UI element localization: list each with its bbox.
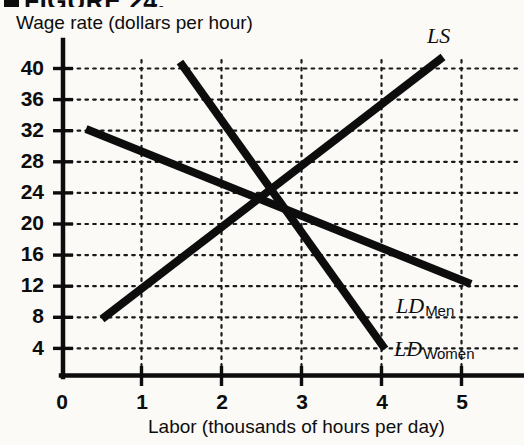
ytick-label-16: 16 bbox=[0, 243, 44, 264]
curve-label-ld-men-text: LD bbox=[396, 293, 424, 318]
ytick-label-32: 32 bbox=[0, 119, 44, 140]
curve-label-ld-women-text: LD bbox=[394, 336, 422, 361]
x-axis-title: Labor (thousands of hours per day) bbox=[148, 416, 445, 438]
ytick-label-20: 20 bbox=[0, 212, 44, 233]
curve-label-ld-women: LDWomen bbox=[394, 338, 475, 361]
curve-label-ld-men-subscript: Men bbox=[425, 302, 454, 319]
curve-label-ls-text: LS bbox=[427, 23, 450, 48]
ytick-label-12: 12 bbox=[0, 274, 44, 295]
curve-ld-women bbox=[180, 62, 385, 349]
xtick-label-3: 3 bbox=[287, 391, 317, 412]
xtick-label-5: 5 bbox=[447, 391, 477, 412]
ytick-label-24: 24 bbox=[0, 181, 44, 202]
xtick-label-2: 2 bbox=[207, 391, 237, 412]
ytick-label-40: 40 bbox=[0, 57, 44, 78]
figure-container: FIGURE 24. Wage rate (dollars per hour) bbox=[0, 0, 524, 445]
ytick-label-36: 36 bbox=[0, 88, 44, 109]
ytick-label-4: 4 bbox=[0, 337, 44, 358]
curve-label-ld-women-subscript: Women bbox=[423, 345, 474, 362]
chart-plot bbox=[0, 0, 524, 445]
xtick-label-1: 1 bbox=[127, 391, 157, 412]
curve-label-ls: LS bbox=[427, 25, 450, 47]
curve-label-ld-men: LDMen bbox=[396, 295, 454, 318]
xtick-label-0: 0 bbox=[47, 391, 77, 412]
ytick-label-28: 28 bbox=[0, 150, 44, 171]
xtick-label-4: 4 bbox=[367, 391, 397, 412]
ytick-label-8: 8 bbox=[0, 305, 44, 326]
